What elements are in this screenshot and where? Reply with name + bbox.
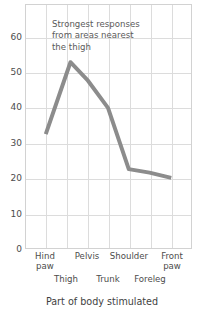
x-tick-thigh: Thigh <box>54 274 78 284</box>
y-tick-40: 40 <box>2 102 22 112</box>
x-axis-title: Part of body stimulated <box>0 296 204 307</box>
x-tick-front-paw: Front paw <box>161 251 183 271</box>
x-tick-pelvis: Pelvis <box>75 251 100 261</box>
x-tick-shoulder: Shoulder <box>110 251 148 261</box>
x-tick-hind-paw: Hind paw <box>35 251 55 271</box>
y-tick-10: 10 <box>2 209 22 219</box>
y-tick-50: 50 <box>2 67 22 77</box>
y-tick-0: 0 <box>2 244 22 254</box>
y-tick-20: 20 <box>2 173 22 183</box>
y-axis-tick-labels: 0 10 20 30 40 50 60 <box>0 0 22 318</box>
chart-annotation: Strongest responses from areas nearest t… <box>52 19 140 53</box>
x-tick-trunk: Trunk <box>96 274 119 284</box>
series-polyline <box>46 62 171 178</box>
line-chart: ] 0 10 20 30 40 50 60 Strongest response… <box>0 0 204 318</box>
y-tick-30: 30 <box>2 138 22 148</box>
y-tick-60: 60 <box>2 32 22 42</box>
x-tick-foreleg: Foreleg <box>134 274 166 284</box>
